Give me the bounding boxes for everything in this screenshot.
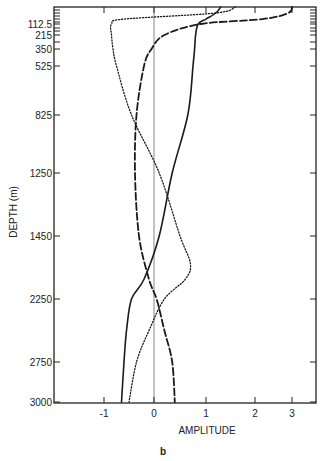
y-tick-label: 1250 (30, 168, 53, 179)
plot-border (54, 7, 316, 403)
x-axis-title: AMPLITUDE (178, 425, 236, 436)
y-tick-label: 3000 (30, 397, 53, 408)
x-tick-label: 1 (203, 408, 209, 419)
y-tick-label: 350 (35, 44, 52, 55)
x-tick-label: 3 (289, 408, 295, 419)
y-tick-label: 112.5 (28, 19, 53, 30)
x-axis-ticks: -10123 (100, 7, 296, 419)
y-axis-title: DEPTH (m) (8, 186, 19, 238)
panel-label: b (160, 446, 166, 457)
x-tick-label: 0 (151, 408, 157, 419)
x-tick-label: 2 (252, 408, 258, 419)
plot-frame (54, 7, 316, 403)
x-tick-label: -1 (100, 408, 109, 419)
y-tick-label: 215 (35, 30, 52, 41)
y-tick-label: 2750 (30, 357, 53, 368)
curve-dotted (111, 7, 236, 402)
y-tick-label: 525 (35, 61, 52, 72)
curve-dashed (135, 7, 292, 402)
y-tick-label: 2250 (30, 294, 53, 305)
y-tick-label: 1450 (30, 231, 53, 242)
curves (111, 7, 292, 402)
depth-amplitude-chart: 112.521535052582512501450225027503000 -1… (0, 0, 323, 461)
y-tick-label: 825 (35, 110, 52, 121)
